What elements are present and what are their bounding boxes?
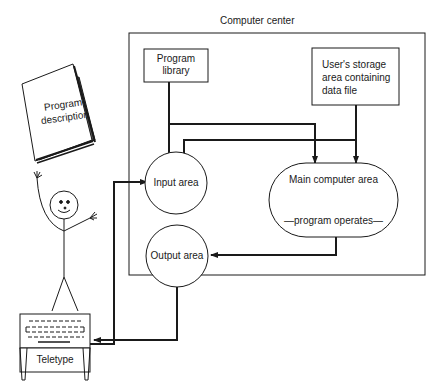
computer-center-title: Computer center (220, 15, 294, 27)
user-storage-line3: data file (322, 84, 390, 97)
teletype-label: Teletype (20, 354, 90, 366)
input-area-label: Input area (145, 177, 207, 189)
user-storage-label: User's storage area containing data file (322, 58, 390, 97)
teletype-icon (20, 314, 90, 380)
main-computer-label: Main computer area (269, 174, 398, 186)
user-storage-line2: area containing (322, 71, 390, 84)
program-library-line1: Program (144, 53, 208, 65)
program-library-label: Program library (144, 53, 208, 77)
user-storage-line1: User's storage (322, 58, 390, 71)
output-area-label: Output area (146, 250, 208, 262)
main-computer-sublabel: —program operates— (269, 215, 398, 227)
program-library-line2: library (144, 65, 208, 77)
person-icon (34, 171, 97, 311)
